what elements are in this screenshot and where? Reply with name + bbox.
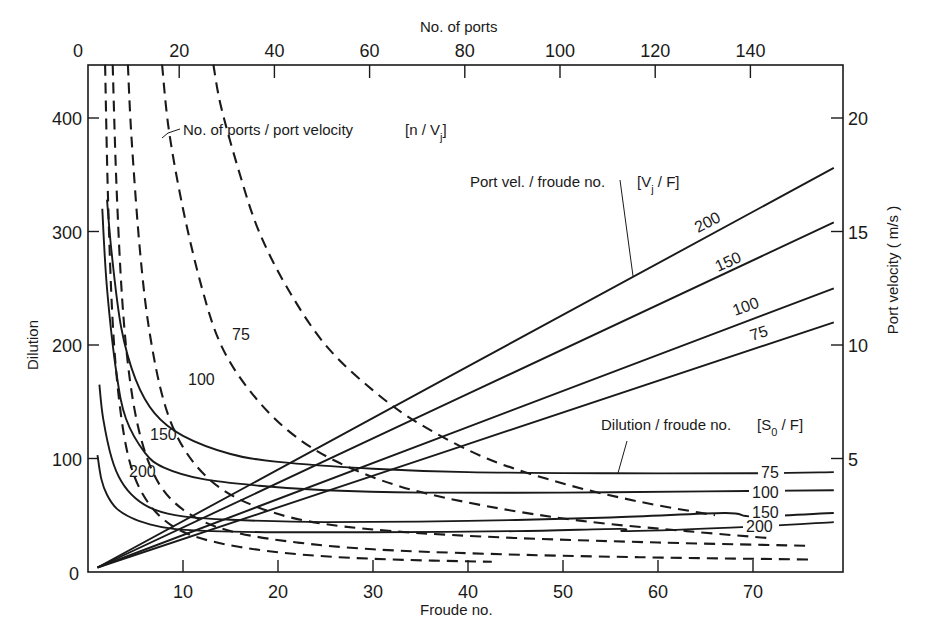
chart-canvas: 1020304050607000204060801001201401002003… xyxy=(0,0,927,640)
x-top-tick-label: 80 xyxy=(455,41,475,61)
plot-frame xyxy=(88,65,843,572)
annotation-s0-f-text: Dilution / froude no. xyxy=(601,416,731,433)
y-left-tick-label: 200 xyxy=(52,336,82,356)
curve-label-vj150: 150 xyxy=(712,248,743,274)
series-vj-f-150 xyxy=(98,222,834,567)
y-right-tick-label: 15 xyxy=(848,223,868,243)
x-bottom-tick-label: 30 xyxy=(363,582,383,602)
x-bottom-tick-label: 10 xyxy=(173,582,193,602)
curve-label-n150: 150 xyxy=(150,426,177,443)
annotation-n-vj: No. of ports / port velocity [n / Vj] xyxy=(162,121,447,143)
x-top-tick-label: 20 xyxy=(169,41,189,61)
series-vj-f-200 xyxy=(98,168,834,568)
x-bottom-axis-title: Froude no. xyxy=(420,601,493,618)
data-series xyxy=(98,65,834,568)
x-bottom-tick-label: 20 xyxy=(268,582,288,602)
y-left-tick-label: 400 xyxy=(52,109,82,129)
curve-label-vj100: 100 xyxy=(730,294,761,319)
x-bottom-tick-label: 70 xyxy=(743,582,763,602)
curve-label-vj75: 75 xyxy=(748,322,770,344)
y-right-tick-label: 5 xyxy=(848,450,858,470)
x-bottom-tick-label: 60 xyxy=(648,582,668,602)
x-top-tick-label: 0 xyxy=(73,41,83,61)
curve-label-n75: 75 xyxy=(232,326,250,343)
annotation-s0-f-bracket: [S0 / F] xyxy=(757,416,803,438)
annotation-vj-f: Port vel. / froude no. [Vj / F] xyxy=(470,173,679,276)
curve-label-s0200: 200 xyxy=(746,518,773,535)
y-left-axis-title: Dilution xyxy=(24,320,41,370)
y-right-tick-label: 20 xyxy=(848,109,868,129)
x-top-tick-label: 120 xyxy=(640,41,670,61)
series-n-vj-unlabeled xyxy=(105,65,492,562)
x-top-tick-label: 100 xyxy=(545,41,575,61)
series-s0-f-100 xyxy=(102,209,834,493)
x-bottom-origin-label: 0 xyxy=(69,564,79,584)
x-top-axis-title: No. of ports xyxy=(420,18,498,35)
x-top-tick-label: 40 xyxy=(264,41,284,61)
x-top-tick-label: 60 xyxy=(360,41,380,61)
series-s0-f-150 xyxy=(99,385,833,522)
curve-label-s0100: 100 xyxy=(752,484,779,501)
annotation-vj-f-text: Port vel. / froude no. xyxy=(470,173,605,190)
curve-label-n200: 200 xyxy=(129,463,156,480)
annotation-n-vj-text: No. of ports / port velocity xyxy=(183,121,354,138)
y-right-axis-title: Port velocity ( m/s ) xyxy=(884,206,901,334)
y-right-tick-label: 10 xyxy=(848,336,868,356)
y-left-tick-label: 100 xyxy=(52,450,82,470)
annotation-n-vj-bracket: [n / Vj] xyxy=(405,121,447,143)
curve-label-s075: 75 xyxy=(761,464,779,481)
x-bottom-tick-label: 40 xyxy=(458,582,478,602)
annotation-vj-f-bracket: [Vj / F] xyxy=(637,173,679,195)
curve-label-n100: 100 xyxy=(188,371,215,388)
x-bottom-tick-label: 50 xyxy=(553,582,573,602)
y-left-tick-label: 300 xyxy=(52,223,82,243)
curve-label-vj200: 200 xyxy=(692,208,724,235)
x-top-tick-label: 140 xyxy=(735,41,765,61)
